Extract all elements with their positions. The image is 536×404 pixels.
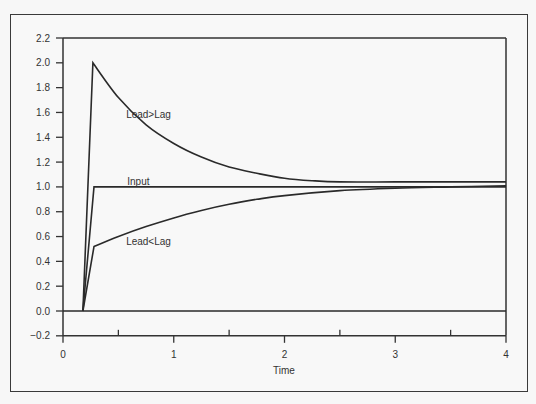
x-tick-label: 1 bbox=[171, 349, 177, 360]
y-tick-label: 0.4 bbox=[36, 256, 50, 267]
label-input: Input bbox=[127, 176, 149, 187]
y-tick-label: 1.6 bbox=[36, 107, 50, 118]
y-tick-label: 1.0 bbox=[36, 181, 50, 192]
y-tick-label: 0.2 bbox=[36, 281, 50, 292]
x-tick-label: 0 bbox=[60, 349, 66, 360]
y-tick-label: 2.0 bbox=[36, 57, 50, 68]
label-lead-gt-lag: Lead>Lag bbox=[126, 109, 171, 120]
label-lead-lt-lag: Lead<Lag bbox=[126, 236, 171, 247]
x-tick-label: 2 bbox=[282, 349, 288, 360]
y-tick-label: 1.4 bbox=[36, 132, 50, 143]
y-tick-label: 0.6 bbox=[36, 231, 50, 242]
x-tick-label: 3 bbox=[392, 349, 398, 360]
y-tick-label: 1.8 bbox=[36, 82, 50, 93]
y-tick-label: 2.2 bbox=[36, 33, 50, 44]
line-chart: −0.20.00.20.40.60.81.01.21.41.61.82.02.2… bbox=[0, 0, 536, 404]
y-tick-label: 0.0 bbox=[36, 306, 50, 317]
series-line-lead-lag bbox=[83, 186, 506, 311]
y-tick-label: −0.2 bbox=[30, 330, 50, 341]
x-tick-label: 4 bbox=[503, 349, 509, 360]
series-line-input bbox=[83, 187, 506, 311]
x-axis-title: Time bbox=[273, 365, 295, 376]
y-tick-label: 1.2 bbox=[36, 157, 50, 168]
y-tick-label: 0.8 bbox=[36, 206, 50, 217]
